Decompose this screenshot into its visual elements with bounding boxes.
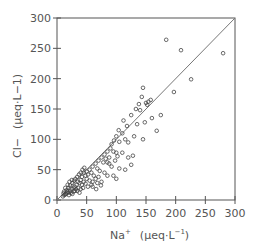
x-tick-label: 150	[136, 207, 157, 220]
data-point	[143, 121, 147, 125]
x-tick-label: 200	[165, 207, 186, 220]
data-point	[109, 147, 113, 151]
x-axis-label: Na+(μeq·L−1)	[110, 228, 189, 242]
x-tick-label: 0	[54, 207, 61, 220]
y-axis-label: Cl−(μeq·L−1)	[11, 74, 24, 158]
data-point	[104, 157, 108, 161]
reference-line	[57, 18, 235, 200]
data-point	[110, 165, 114, 169]
y-tick-label: 200	[30, 73, 51, 86]
data-point	[155, 129, 159, 133]
x-tick-label: 300	[225, 207, 246, 220]
y-tick-label: 100	[30, 133, 51, 146]
one-to-one-line	[57, 18, 235, 200]
data-point	[112, 174, 116, 178]
data-point	[172, 90, 176, 94]
data-point	[126, 156, 130, 160]
data-point	[118, 140, 122, 144]
data-point	[141, 138, 145, 142]
x-label-unit: (μeq·L	[140, 229, 176, 242]
data-point	[134, 107, 138, 111]
y-tick-label: 0	[44, 194, 51, 207]
svg-text:Na+(μeq·L−1): Na+(μeq·L−1)	[110, 228, 189, 242]
data-point	[189, 78, 193, 82]
data-point	[94, 162, 98, 166]
data-point	[97, 159, 101, 163]
axis-ticks: 050100150200250300050100150200250300	[30, 12, 246, 220]
y-label-charge: −	[11, 138, 24, 147]
data-point	[138, 108, 142, 112]
data-point	[140, 95, 144, 99]
data-point	[94, 187, 98, 191]
data-point	[129, 113, 133, 117]
data-point	[116, 155, 120, 159]
data-point	[117, 128, 121, 132]
data-point	[103, 171, 107, 175]
data-point	[179, 48, 183, 52]
data-point	[137, 102, 141, 106]
x-label-close: )	[185, 229, 189, 242]
data-point	[164, 38, 168, 42]
data-point	[106, 174, 110, 178]
data-point	[123, 138, 127, 142]
y-label-ion: Cl	[11, 147, 24, 158]
data-point	[96, 181, 100, 185]
data-point	[113, 159, 117, 163]
data-point	[100, 180, 104, 184]
data-point	[98, 169, 102, 173]
data-point	[132, 135, 136, 139]
x-tick-label: 50	[80, 207, 94, 220]
data-point	[90, 171, 94, 175]
data-point	[91, 165, 95, 169]
data-point	[115, 135, 119, 139]
x-tick-label: 100	[106, 207, 127, 220]
data-point	[103, 153, 107, 157]
data-points	[61, 38, 225, 198]
data-point	[107, 156, 111, 160]
y-tick-label: 250	[30, 42, 51, 55]
x-label-ion: Na	[110, 229, 125, 242]
svg-text:Cl−(μeq·L−1): Cl−(μeq·L−1)	[11, 74, 24, 158]
data-point	[115, 177, 119, 181]
data-point	[123, 168, 127, 172]
data-point	[131, 154, 135, 158]
data-point	[150, 116, 154, 120]
data-point	[141, 86, 145, 90]
x-tick-label: 250	[195, 207, 216, 220]
data-point	[106, 150, 110, 154]
data-point	[129, 163, 133, 167]
data-point	[135, 122, 139, 126]
y-label-unit: (μeq·L−1)	[11, 74, 24, 129]
data-point	[221, 51, 225, 55]
data-point	[86, 185, 90, 189]
data-point	[125, 124, 129, 128]
data-point	[118, 167, 122, 171]
data-point	[121, 151, 125, 155]
data-point	[97, 175, 101, 179]
data-point	[159, 113, 163, 117]
data-point	[122, 119, 126, 123]
y-tick-label: 300	[30, 12, 51, 25]
data-point	[100, 156, 104, 160]
y-tick-label: 50	[37, 164, 51, 177]
scatter-chart: 050100150200250300050100150200250300 Na+…	[0, 0, 255, 250]
data-point	[102, 161, 106, 165]
y-tick-label: 150	[30, 103, 51, 116]
x-label-exp: −1	[175, 228, 185, 236]
data-point	[99, 184, 103, 188]
x-label-charge: +	[125, 228, 131, 236]
data-point	[126, 141, 130, 145]
